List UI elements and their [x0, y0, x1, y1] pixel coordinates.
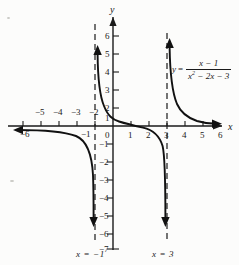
left-asymptote-label: x = −1 [76, 250, 105, 259]
y-tick-label: 2 [105, 104, 110, 113]
curve-branch-left [18, 130, 94, 218]
y-tick-label: −4 [99, 194, 109, 203]
graph-figure: −6 −5 −4 −3 −2 −1 0 1 2 3 4 5 6 6 5 4 3 … [0, 0, 239, 265]
x-tick-label: −3 [71, 108, 81, 117]
y-tick-label: −3 [99, 176, 109, 185]
scan-speck [10, 180, 14, 182]
equation-equals-sign: = [178, 64, 183, 74]
y-tick-label: 3 [105, 86, 110, 95]
arrow-middle-branch-down [161, 217, 169, 227]
x-tick-label: 4 [182, 131, 187, 140]
arrow-left-branch-down [89, 217, 97, 227]
equation-lhs: y [172, 64, 176, 74]
x-tick-label: 5 [200, 131, 205, 140]
y-tick-label: 4 [105, 68, 110, 77]
x-tick-label: −4 [53, 108, 63, 117]
y-tick-label: −2 [99, 158, 109, 167]
y-axis-label: y [110, 5, 114, 15]
x-tick-label: 3 [164, 131, 169, 140]
equation-denominator: x2 − 2x − 3 [186, 70, 231, 81]
x-tick-label: 1 [128, 131, 133, 140]
right-asymptote-label: x = 3 [152, 250, 174, 259]
scan-speck [7, 17, 10, 19]
x-tick-label: −2 [89, 108, 99, 117]
x-tick-label: −1 [81, 130, 91, 139]
equation-denominator-rest: − 2x − 3 [197, 71, 229, 81]
equation-numerator: x − 1 [186, 58, 231, 70]
x-tick-label: −5 [35, 108, 45, 117]
x-tick-label: 2 [146, 131, 151, 140]
y-tick-label: 6 [105, 32, 110, 41]
y-tick-label: 5 [105, 50, 110, 59]
y-tick-label: −1 [99, 140, 109, 149]
x-axis-label: x [228, 122, 232, 132]
y-axis-arrowhead [109, 17, 116, 26]
y-tick-label: 1 [105, 114, 110, 123]
axes-group [8, 17, 222, 250]
equation-fraction: x − 1x2 − 2x − 3 [186, 58, 231, 82]
x-tick-label: −6 [20, 130, 30, 139]
equation-denominator-exponent: 2 [192, 70, 195, 76]
function-equation-label: y=x − 1x2 − 2x − 3 [172, 58, 231, 82]
y-tick-label: −5 [99, 212, 109, 221]
y-tick-label: −6 [99, 230, 109, 239]
x-tick-label: 6 [218, 131, 223, 140]
